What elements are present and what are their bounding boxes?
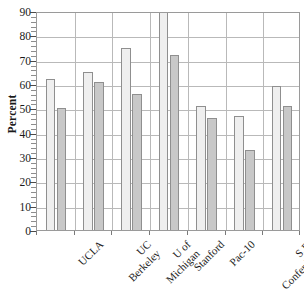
x-axis-label-uc-berkeley: UCBerkeley: [116, 238, 162, 284]
x-axis-label-line: S.E.: [293, 238, 304, 259]
bar-chart: Percent 0102030405060708090 UCLAUCBerkel…: [0, 0, 304, 294]
x-axis-category-labels: UCLAUCBerkeleyU ofMichiganStanfordPac-10…: [0, 0, 304, 294]
x-axis-label-s-e-conference: S.E.Conference: [270, 238, 304, 292]
x-axis-label-ucla: UCLA: [76, 238, 106, 268]
x-axis-label-line: UCLA: [76, 238, 106, 268]
x-axis-label-line: Pac-10: [227, 238, 257, 268]
x-axis-label-pac-10: Pac-10: [227, 238, 257, 268]
